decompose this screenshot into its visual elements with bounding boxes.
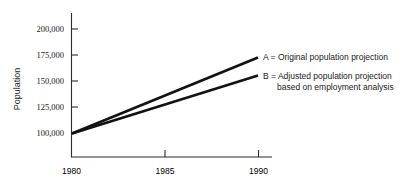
- x-tick-label-1980: 1980: [62, 166, 81, 176]
- chart-canvas: Population 200,000 175,000 150,000 125,0…: [0, 0, 419, 190]
- population-projection-chart: Population 200,000 175,000 150,000 125,0…: [0, 0, 419, 190]
- x-tick-label-1985: 1985: [156, 166, 175, 176]
- y-tick-label-175000: 175,000: [36, 50, 64, 60]
- x-tick-label-1990: 1990: [249, 166, 268, 176]
- y-tick-label-100000: 100,000: [36, 128, 64, 138]
- y-tick-label-125000: 125,000: [36, 102, 64, 112]
- y-axis-title: Population: [12, 68, 22, 111]
- legend-entry-a-line1: A = Original population projection: [263, 52, 388, 62]
- y-tick-label-200000: 200,000: [36, 24, 64, 34]
- y-tick-label-150000: 150,000: [36, 76, 64, 86]
- series-line-b: [72, 76, 258, 134]
- legend-entry-b-line1: B = Adjusted population projection: [263, 71, 392, 81]
- legend-entry-b-line2: based on employment analysis: [277, 82, 394, 92]
- series-line-a: [72, 58, 258, 134]
